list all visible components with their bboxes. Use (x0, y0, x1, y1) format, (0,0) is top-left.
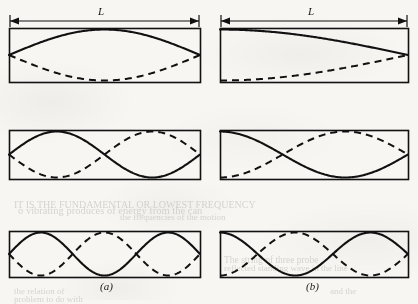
panel-a-mode-3-border (10, 232, 201, 278)
panel-b-mode-2 (220, 131, 409, 180)
panel-b-mode-1-solid-wave (220, 30, 408, 56)
dimension-arrow-head-right (190, 18, 199, 25)
panel-a-mode-1 (9, 29, 201, 83)
length-label-b: L (308, 5, 314, 17)
length-label-a: L (98, 5, 104, 17)
panel-a-mode-3-dashed-wave (9, 233, 200, 276)
panel-a-mode-3 (9, 232, 201, 278)
panel-a-mode-2-solid-wave (9, 132, 200, 178)
dimension-arrow-head-left (10, 18, 19, 25)
panel-a-mode-2 (9, 131, 201, 180)
panel-b-mode-1-dashed-wave (220, 55, 408, 81)
panel-a-mode-1-solid-wave (9, 30, 200, 56)
column-caption-a: (a) (100, 280, 113, 292)
dimension-arrow-head-right (398, 18, 407, 25)
panel-b-mode-3 (220, 232, 409, 278)
column-caption-b: (b) (306, 280, 319, 292)
dimension-arrow-a (10, 15, 199, 27)
panel-b-mode-1 (220, 29, 409, 83)
panel-a-mode-1-dashed-wave (9, 55, 200, 81)
panel-a-mode-1-border (10, 29, 201, 83)
panel-a-mode-3-solid-wave (9, 233, 200, 276)
dimension-arrow-head-left (221, 18, 230, 25)
